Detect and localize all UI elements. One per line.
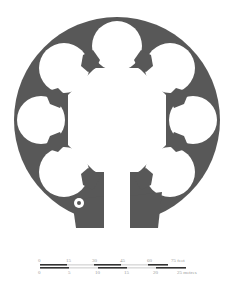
scale-bar: 0 15 30 45 60 75 feet 0 5 10 15 20 25 me… [0,250,235,287]
outer-scallops [0,0,235,15]
metres-tick-0: 0 [38,270,41,275]
feet-scale: 0 15 30 45 60 75 feet [38,258,185,266]
metres-tick-10: 10 [95,270,101,275]
feet-tick-30: 30 [92,258,98,263]
feet-end-label: 75 feet [171,258,185,263]
chapel-lobes [0,21,235,235]
metres-end-label: 25 metres [177,270,197,275]
feet-tick-45: 45 [120,258,126,263]
metres-scale: 0 5 10 15 20 25 metres [38,267,197,275]
metres-tick-5: 5 [68,270,71,275]
floor-plan [0,0,235,235]
feet-tick-0: 0 [38,258,41,263]
metres-tick-15: 15 [124,270,130,275]
stair-well-icon [74,198,84,208]
feet-tick-60: 60 [147,258,153,263]
feet-tick-15: 15 [66,258,72,263]
metres-tick-20: 20 [153,270,159,275]
